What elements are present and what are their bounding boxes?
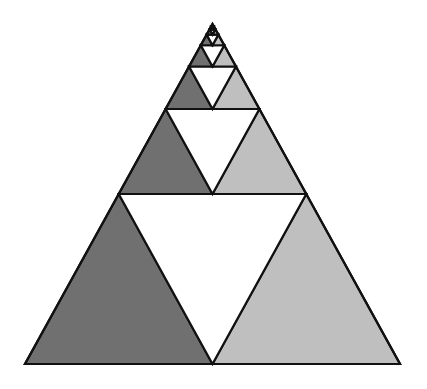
triangle-fractal-diagram (0, 0, 427, 389)
triangle-levels (25, 24, 400, 364)
